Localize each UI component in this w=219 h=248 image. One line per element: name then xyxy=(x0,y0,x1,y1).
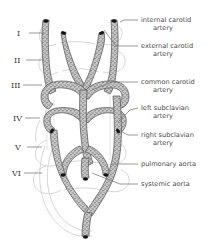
arch-numeral-iv: IV xyxy=(13,114,22,123)
arch-numeral-ii: II xyxy=(14,56,20,65)
label-line: systemic aorta xyxy=(141,180,190,188)
label-line: artery xyxy=(153,50,173,58)
arch-numeral-vi: VI xyxy=(11,169,21,178)
label-line: artery xyxy=(153,139,173,147)
label-line: artery xyxy=(153,24,173,32)
arch-numeral-iii: III xyxy=(11,81,20,90)
aortic-arch-figure: IIIIIIIVVVI internal carotidarteryextern… xyxy=(0,0,219,248)
vessel-pulmonary-aorta xyxy=(81,158,89,178)
label-pulmonary-aorta: pulmonary aorta xyxy=(141,160,196,168)
label-line: artery xyxy=(153,86,173,94)
tip-descending-aorta xyxy=(83,235,88,238)
label-line: pulmonary aorta xyxy=(141,160,196,168)
label-systemic-aorta: systemic aorta xyxy=(141,180,190,188)
label-line: artery xyxy=(153,112,173,120)
arch-numeral-i: I xyxy=(17,29,20,38)
arch-numeral-v: V xyxy=(14,143,21,152)
tip-pulmonary-aorta xyxy=(83,177,88,180)
